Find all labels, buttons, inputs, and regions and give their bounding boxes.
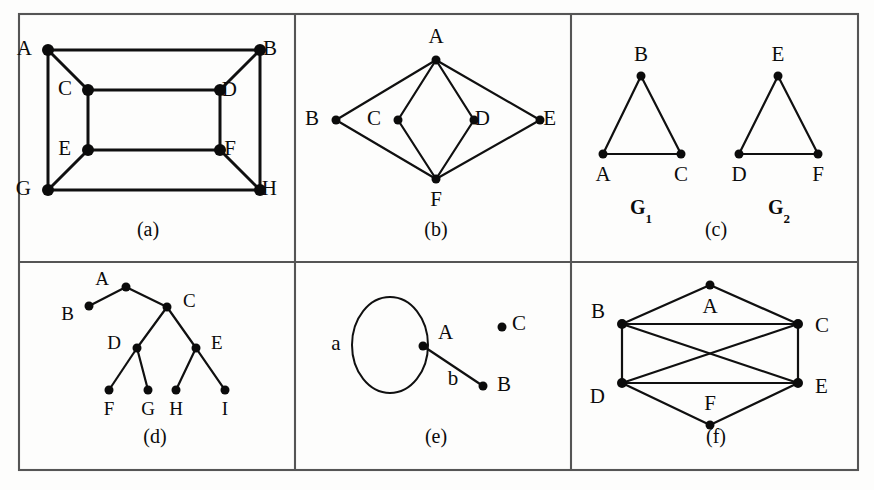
vertex-label-b-E: E xyxy=(543,106,556,130)
panel-f: ABCDEF(f) xyxy=(590,281,829,449)
vertex-label-b-A: A xyxy=(428,24,444,48)
vertex-d-F xyxy=(105,386,114,395)
edge-c-EF xyxy=(778,76,818,154)
vertex-label-f-B: B xyxy=(591,299,605,323)
vertex-label-f-D: D xyxy=(590,384,605,408)
vertex-label-d-D: D xyxy=(107,332,121,353)
vertex-e-C xyxy=(498,323,507,332)
edge-b-FB xyxy=(336,120,436,179)
vertex-label-b-C: C xyxy=(367,106,381,130)
vertex-label-c-A: A xyxy=(595,162,611,186)
edge-c-DE xyxy=(739,76,778,154)
edge-d-DG xyxy=(137,348,148,390)
vertex-label-c-D: D xyxy=(731,162,746,186)
edge-b-FC xyxy=(398,120,436,179)
panel-a: ABCDEFGH(a) xyxy=(16,36,277,241)
edge-d-DF xyxy=(109,348,137,390)
vertex-label-c-E: E xyxy=(772,42,785,66)
edge-c-BC xyxy=(641,76,681,154)
panel-e: abABC(e) xyxy=(331,297,526,448)
vertex-c-D xyxy=(735,150,744,159)
vertex-d-C xyxy=(163,303,172,312)
vertex-e-A xyxy=(419,342,428,351)
vertex-label-f-C: C xyxy=(815,313,829,337)
vertex-label-f-F: F xyxy=(704,391,716,415)
subgraph-caption-base: G xyxy=(630,196,646,218)
subgraph-caption-G1: G1 xyxy=(630,196,652,226)
vertex-c-A xyxy=(599,150,608,159)
panels-container: ABCDEFGH(a)ABCDEF(b)ABCDEFG1G2(c)ABCDEFG… xyxy=(16,24,829,448)
edge-b-AD xyxy=(436,60,474,120)
figure-page: ABCDEFGH(a)ABCDEF(b)ABCDEFG1G2(c)ABCDEFG… xyxy=(0,0,874,490)
vertex-d-G xyxy=(144,386,153,395)
vertex-a-C xyxy=(82,84,94,96)
subgraph-caption-base: G xyxy=(768,196,784,218)
vertex-f-A xyxy=(706,281,715,290)
vertex-d-A xyxy=(122,283,131,292)
vertex-d-H xyxy=(172,386,181,395)
vertex-label-a-B: B xyxy=(263,36,277,60)
subgraph-caption-subscript: 2 xyxy=(784,211,791,226)
vertex-d-E xyxy=(192,344,201,353)
vertex-label-a-G: G xyxy=(16,176,31,200)
vertex-label-b-B: B xyxy=(305,106,319,130)
vertex-label-f-A: A xyxy=(702,294,718,318)
vertex-label-d-H: H xyxy=(169,398,183,419)
edge-b-AC xyxy=(398,60,436,120)
edge-f-EF xyxy=(710,383,798,425)
vertex-label-d-C: C xyxy=(183,290,196,311)
vertex-d-I xyxy=(221,386,230,395)
edge-d-EH xyxy=(176,348,196,390)
vertex-b-F xyxy=(432,175,441,184)
edge-d-CD xyxy=(137,307,167,348)
edge-f-DF xyxy=(622,383,710,425)
panel-caption-d: (d) xyxy=(143,425,166,448)
vertex-d-B xyxy=(85,302,94,311)
vertex-label-e-C: C xyxy=(512,311,526,335)
edge-c-AB xyxy=(603,76,641,154)
vertex-label-c-C: C xyxy=(674,162,688,186)
panel-c: ABCDEFG1G2(c) xyxy=(595,42,823,241)
vertex-label-a-D: D xyxy=(222,77,237,101)
edge-d-AB xyxy=(89,287,126,306)
vertex-label-d-B: B xyxy=(61,303,74,324)
vertex-label-a-A: A xyxy=(17,36,33,60)
vertex-f-E xyxy=(793,378,803,388)
edge-label-a: a xyxy=(331,331,341,355)
edge-b-FD xyxy=(436,120,474,179)
vertex-label-b-D: D xyxy=(475,106,490,130)
vertex-label-d-G: G xyxy=(141,398,155,419)
edge-d-CE xyxy=(167,307,196,348)
vertex-a-G xyxy=(42,184,54,196)
vertex-f-C xyxy=(793,319,803,329)
subgraph-caption-subscript: 1 xyxy=(646,211,653,226)
panel-caption-b: (b) xyxy=(424,218,447,241)
vertex-label-b-F: F xyxy=(430,187,442,211)
edge-f-AB xyxy=(622,285,710,324)
panel-caption-a: (a) xyxy=(137,218,159,241)
vertex-c-B xyxy=(637,72,646,81)
panel-caption-c: (c) xyxy=(705,218,727,241)
vertex-c-C xyxy=(677,150,686,159)
vertex-c-F xyxy=(814,150,823,159)
vertex-label-c-F: F xyxy=(812,162,824,186)
vertex-label-e-A: A xyxy=(438,320,454,344)
vertex-label-e-B: B xyxy=(497,372,511,396)
edge-f-AC xyxy=(710,285,798,324)
vertex-b-A xyxy=(432,56,441,65)
vertex-label-a-E: E xyxy=(58,136,71,160)
vertex-c-E xyxy=(774,72,783,81)
vertex-a-A xyxy=(42,44,54,56)
vertex-label-a-F: F xyxy=(224,136,236,160)
vertex-label-d-I: I xyxy=(222,398,228,419)
vertex-label-d-A: A xyxy=(95,268,109,289)
panel-b: ABCDEF(b) xyxy=(305,24,556,241)
edge-label-b: b xyxy=(448,366,459,390)
edge-d-AC xyxy=(126,287,167,307)
vertex-label-a-C: C xyxy=(58,76,72,100)
edge-b-AB xyxy=(336,60,436,120)
vertex-label-a-H: H xyxy=(262,176,277,200)
panel-caption-f: (f) xyxy=(706,425,726,448)
vertex-d-D xyxy=(133,344,142,353)
vertex-f-D xyxy=(617,378,627,388)
